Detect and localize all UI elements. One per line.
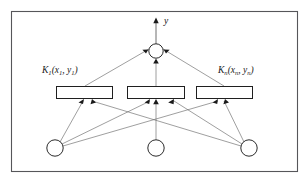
kernel-box-right[interactable] <box>197 87 253 99</box>
kernel-box-left[interactable] <box>57 87 113 99</box>
input-node-2[interactable] <box>148 140 164 156</box>
kernel-box-middle[interactable] <box>128 87 185 99</box>
figure-root: y K1(x1, y1) Kn(xn, yn) <box>0 0 308 181</box>
input-node-1[interactable] <box>47 140 63 156</box>
kernel-label-right-close: ) <box>250 65 254 76</box>
output-label-y: y <box>163 16 169 26</box>
rbf-network-diagram: y K1(x1, y1) Kn(xn, yn) <box>0 0 308 181</box>
kernel-label-left-close: ) <box>74 65 78 76</box>
output-summation-node[interactable] <box>149 44 163 58</box>
input-node-3[interactable] <box>241 140 257 156</box>
